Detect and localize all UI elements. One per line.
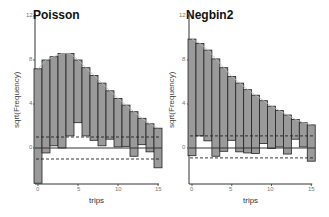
x-tick-15: 15 — [155, 186, 162, 192]
y-tick-12: 12 — [26, 12, 33, 18]
rootogram-bar — [106, 91, 114, 139]
rootogram-bar — [275, 111, 283, 147]
x-axis-label: trips — [89, 196, 104, 205]
rootogram-bar — [90, 75, 98, 140]
rootogram-bar — [82, 68, 90, 136]
rootogram-bar — [130, 112, 138, 157]
negbin2-panel: Negbin2 sqrt(Frequency) trips 12 8 4 0 0… — [165, 0, 329, 217]
rootogram-bar — [236, 83, 244, 152]
rootogram-bar — [114, 99, 122, 147]
y-axis-label: sqrt(Frequency) — [12, 72, 21, 128]
rootogram-bar — [196, 44, 204, 136]
y-axis-label: sqrt(Frequency) — [167, 72, 176, 128]
rootogram-bar — [74, 60, 82, 123]
x-tick-5: 5 — [229, 186, 232, 192]
x-tick-10: 10 — [115, 186, 122, 192]
y-tick-4: 4 — [182, 100, 185, 106]
rootogram-bar — [260, 101, 268, 144]
rootogram-bar — [98, 83, 106, 146]
panel-title: Poisson — [33, 8, 80, 22]
y-tick-12: 12 — [179, 12, 186, 18]
poisson-plot — [0, 0, 164, 217]
y-tick-8: 8 — [29, 56, 32, 62]
x-tick-0: 0 — [190, 186, 193, 192]
y-tick-8: 8 — [182, 56, 185, 62]
negbin2-plot — [165, 0, 329, 217]
rootogram-bar — [212, 59, 220, 156]
rootogram-bar — [34, 69, 42, 183]
poisson-panel: Poisson sqrt(Frequency) trips 12 8 4 0 0… — [0, 0, 164, 217]
rootogram-bar — [299, 123, 307, 147]
rootogram-bar — [268, 106, 276, 148]
rootogram-bar — [138, 118, 146, 144]
y-tick-4: 4 — [29, 100, 32, 106]
rootogram-bar — [58, 53, 66, 148]
x-tick-10: 10 — [267, 186, 274, 192]
panel-title: Negbin2 — [186, 8, 233, 22]
y-tick-0: 0 — [182, 144, 185, 150]
rootogram-bar — [188, 39, 196, 156]
rootogram-bar — [204, 50, 212, 141]
x-tick-0: 0 — [36, 186, 39, 192]
rootogram-bar — [122, 105, 130, 146]
rootogram-bar — [66, 53, 74, 135]
x-axis-label: trips — [243, 196, 258, 205]
y-tick-0: 0 — [29, 144, 32, 150]
rootogram-bar — [42, 60, 50, 153]
rootogram-bar — [50, 57, 58, 146]
x-tick-15: 15 — [308, 186, 315, 192]
x-tick-5: 5 — [77, 186, 80, 192]
rootogram-bar — [244, 90, 252, 153]
rootogram-bar — [220, 68, 228, 152]
rootogram-bar — [307, 125, 315, 161]
rootogram-bar — [228, 77, 236, 141]
rootogram-bar — [252, 95, 260, 153]
